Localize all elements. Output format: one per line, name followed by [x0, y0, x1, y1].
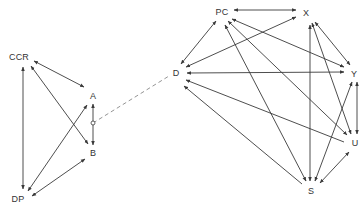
edge-pc-d	[181, 21, 216, 64]
edge-b-dp	[32, 159, 85, 196]
node-d: D	[173, 69, 180, 78]
edge-pc-s	[225, 25, 306, 181]
node-a: A	[90, 92, 96, 101]
causal-diagram	[0, 0, 364, 207]
node-b: B	[90, 149, 96, 158]
edge-u-d	[186, 80, 344, 142]
node-u: U	[352, 139, 359, 148]
node-ccr: CCR	[9, 53, 29, 62]
edge-pc-y	[232, 19, 344, 67]
edge-ccr-a	[34, 61, 84, 87]
dashed-line-ab-to-d	[93, 76, 169, 123]
edge-y-d	[187, 72, 344, 73]
node-dp: DP	[12, 195, 25, 204]
edge-x-u	[312, 23, 351, 134]
node-x: X	[303, 9, 309, 18]
edge-s-d	[184, 86, 302, 184]
edge-y-s	[315, 82, 352, 181]
dashed-connector	[91, 76, 169, 125]
node-s: S	[308, 187, 314, 196]
node-pc: PC	[216, 8, 229, 17]
edge-x-y	[315, 22, 350, 65]
edge-pc-u	[228, 21, 347, 135]
edge-ccr-b	[31, 66, 88, 144]
edges-layer	[23, 10, 357, 196]
junction-circle-icon	[91, 121, 95, 125]
node-y: Y	[351, 70, 357, 79]
edge-x-d	[186, 17, 296, 67]
